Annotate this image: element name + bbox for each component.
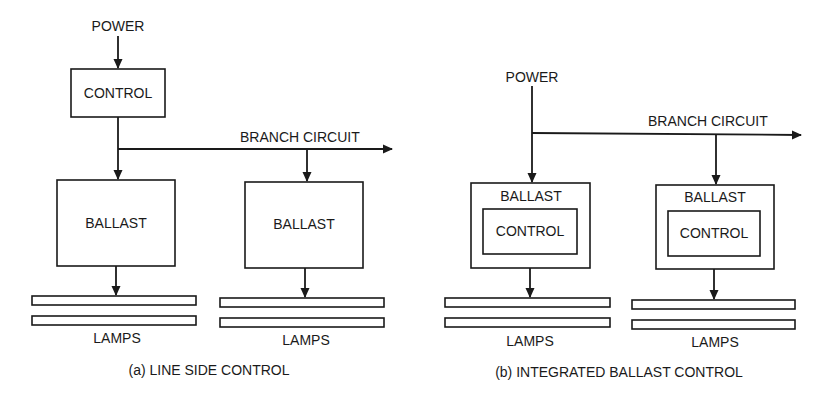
branch-circuit-label: BRANCH CIRCUIT <box>648 113 768 129</box>
ballast-label: BALLAST <box>85 215 147 231</box>
lamp-tube <box>220 298 384 307</box>
lamp-tube <box>32 296 196 305</box>
power-label: POWER <box>92 18 145 34</box>
control-label: CONTROL <box>680 225 749 241</box>
lamp-tube <box>632 300 795 309</box>
lamps-label: LAMPS <box>282 332 329 348</box>
lamp-tube <box>32 316 196 325</box>
panel-a-line-side-control: POWER CONTROL BRANCH CIRCUIT BALLAST BAL… <box>32 18 392 378</box>
lamp-tube <box>632 320 795 329</box>
ballast-label: BALLAST <box>273 216 335 232</box>
caption-b: (b) INTEGRATED BALLAST CONTROL <box>495 364 743 380</box>
lighting-control-diagram: POWER CONTROL BRANCH CIRCUIT BALLAST BAL… <box>0 0 825 395</box>
branch-circuit-line <box>532 133 801 135</box>
branch-circuit-label: BRANCH CIRCUIT <box>240 129 360 145</box>
ballast-label: BALLAST <box>500 188 562 204</box>
control-label: CONTROL <box>496 223 565 239</box>
lamps-label: LAMPS <box>506 333 553 349</box>
lamps-label: LAMPS <box>93 330 140 346</box>
caption-a: (a) LINE SIDE CONTROL <box>128 362 289 378</box>
lamps-label: LAMPS <box>691 334 738 350</box>
control-label: CONTROL <box>84 85 153 101</box>
lamp-tube <box>445 298 610 307</box>
panel-b-integrated-ballast-control: POWER BRANCH CIRCUIT BALLAST CONTROL BAL… <box>445 69 801 380</box>
power-label: POWER <box>506 69 559 85</box>
lamp-tube <box>220 318 384 327</box>
lamp-tube <box>445 318 610 327</box>
ballast-label: BALLAST <box>684 189 746 205</box>
